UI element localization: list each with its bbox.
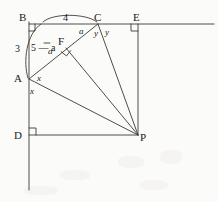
angle-label-C-left: a [79,27,84,36]
geometry-figure: B C E A F D P 4 3 5 — a a y y x x a [0,0,218,202]
right-angle-mark-E [131,24,138,31]
right-angle-mark-B [29,24,35,31]
brace-BC [43,15,97,22]
segment-AP [29,79,138,135]
angle-label-F: a [48,47,53,56]
point-label-C: C [94,12,101,23]
segment-FP [66,48,138,135]
angle-label-C-right: y [105,28,109,37]
figure-canvas [0,0,218,202]
segment-length-BC: 4 [63,13,68,23]
point-label-E: E [133,12,140,23]
point-label-P: P [140,132,146,143]
point-label-A: A [14,73,22,84]
angle-label-A-upper: x [37,74,41,83]
angle-label-A-lower: x [30,87,34,96]
point-label-B: B [19,12,26,23]
point-label-F: F [58,36,64,47]
right-angle-mark-D [29,128,36,135]
angle-label-C-mid: y [94,29,98,38]
segment-length-BA: 3 [15,44,20,54]
point-label-D: D [14,130,22,141]
segment-CP [98,24,138,135]
